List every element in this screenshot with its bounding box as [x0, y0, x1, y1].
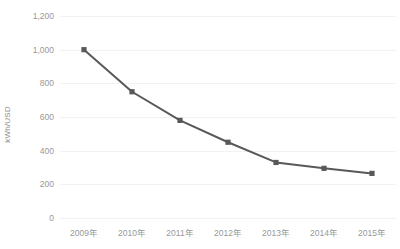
data-point-marker — [129, 89, 134, 94]
y-axis-tick-label: 800 — [40, 78, 54, 88]
y-axis-tick-labels: 02004006008001,0001,200 — [14, 0, 58, 249]
data-point-marker — [369, 171, 374, 176]
y-axis-tick-label: 0 — [49, 213, 54, 223]
y-axis-title: kWh/USD — [0, 0, 14, 249]
data-point-marker — [273, 160, 278, 165]
y-axis-tick-label: 1,000 — [33, 45, 54, 55]
y-axis-tick-label: 400 — [40, 146, 54, 156]
gridline — [60, 218, 396, 219]
x-axis-tick-labels: 2009年2010年2011年2012年2013年2014年2015年 — [60, 226, 396, 246]
data-point-marker — [81, 47, 86, 52]
y-axis-tick-label: 200 — [40, 179, 54, 189]
series-line-kwh-usd — [60, 16, 396, 218]
x-axis-tick-label: 2012年 — [214, 226, 242, 238]
plot-area — [60, 16, 396, 218]
y-axis-tick-label: 1,200 — [33, 11, 54, 21]
data-point-marker — [225, 140, 230, 145]
y-axis-title-label: kWh/USD — [3, 106, 12, 143]
data-point-marker — [321, 166, 326, 171]
series-line — [84, 50, 372, 174]
x-axis-tick-label: 2013年 — [262, 226, 290, 238]
x-axis-tick-label: 2009年 — [70, 226, 98, 238]
x-axis-tick-label: 2011年 — [166, 226, 193, 238]
x-axis-tick-label: 2015年 — [358, 226, 386, 238]
line-chart: kWh/USD 02004006008001,0001,200 2009年201… — [0, 0, 400, 249]
y-axis-tick-label: 600 — [40, 112, 54, 122]
x-axis-tick-label: 2014年 — [310, 226, 338, 238]
x-axis-tick-label: 2010年 — [118, 226, 146, 238]
data-point-marker — [177, 118, 182, 123]
